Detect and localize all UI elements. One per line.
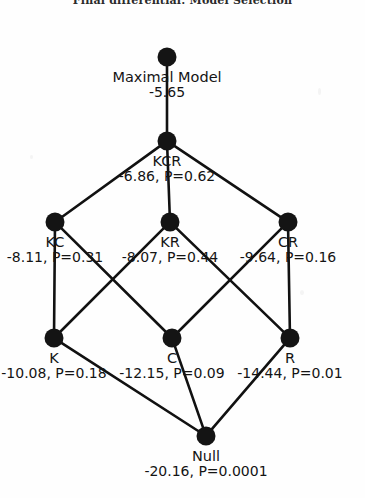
edge-KCR-to-KC [60, 145, 161, 218]
model-selection-figure: Final differential: Model Selection Maxi… [0, 0, 365, 498]
edge-CR-to-R [288, 229, 290, 332]
node-dot-maximal[interactable] [158, 48, 177, 67]
edge-K-to-Null [60, 342, 201, 433]
edge-KCR-to-CR [173, 145, 283, 219]
node-dot-KC[interactable] [46, 213, 65, 232]
node-dot-KR[interactable] [161, 213, 180, 232]
node-dot-C[interactable] [163, 329, 182, 348]
node-dot-K[interactable] [45, 329, 64, 348]
nodes-group [45, 48, 300, 446]
node-dot-CR[interactable] [279, 213, 298, 232]
edges-group [54, 64, 290, 433]
node-dot-R[interactable] [281, 329, 300, 348]
edge-KCR-to-KR [167, 148, 170, 216]
edge-KC-to-C [60, 227, 168, 334]
lattice-graph [0, 0, 365, 498]
edge-KC-to-K [54, 229, 55, 332]
node-dot-KCR[interactable] [158, 132, 177, 151]
node-dot-Null[interactable] [197, 427, 216, 446]
edge-KR-to-K [58, 227, 165, 334]
edge-R-to-Null [210, 343, 286, 431]
